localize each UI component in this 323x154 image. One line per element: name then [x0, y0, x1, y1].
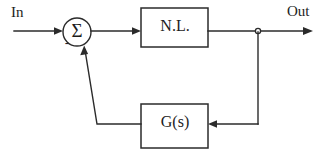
input-arrowhead [54, 27, 63, 35]
negative-feedback-sign: - [62, 36, 72, 49]
gs-to-sum-wire [80, 46, 141, 125]
output-label: Out [287, 4, 310, 19]
input-label: In [11, 5, 24, 20]
nl-input-arrowhead [132, 27, 141, 35]
block-diagram-canvas: In Out Σ - N.L. G(s) [0, 0, 323, 154]
input-wire [14, 27, 63, 35]
feedback-to-gs-wire [208, 120, 258, 128]
output-arrowhead [303, 27, 313, 35]
gs-input-arrowhead [208, 120, 217, 128]
sum-to-nl-wire [91, 27, 141, 35]
nl-block-label: N.L. [141, 18, 209, 34]
sum-negative-arrowhead [80, 46, 88, 56]
gs-block-label: G(s) [141, 114, 209, 130]
